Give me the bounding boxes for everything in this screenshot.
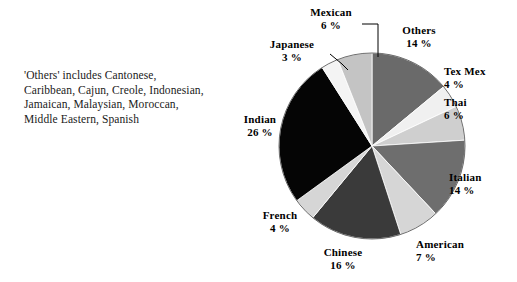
pie-label-thai-name: Thai (444, 96, 488, 109)
pie-label-texmex-name: Tex Mex (444, 65, 506, 78)
pie-label-american-name: American (416, 238, 484, 251)
pie-label-french-name: French (252, 209, 308, 222)
pie-label-indian-pct: 26 % (232, 126, 288, 139)
pie-label-thai-pct: 6 % (444, 109, 488, 122)
pie-label-american: American 7 % (416, 238, 484, 264)
pie-label-italian-name: Italian (449, 171, 509, 184)
pie-label-others-pct: 14 % (388, 37, 450, 50)
pie-chart-figure: 'Others' includes Cantonese, Caribbean, … (0, 0, 517, 282)
pie-label-others-name: Others (388, 24, 450, 37)
pie-label-italian-pct: 14 % (449, 184, 509, 197)
pie-label-others: Others 14 % (388, 24, 450, 50)
pie-label-french-pct: 4 % (252, 222, 308, 235)
pie-label-chinese-pct: 16 % (312, 259, 374, 272)
pie-label-thai: Thai 6 % (444, 96, 488, 122)
pie-label-italian: Italian 14 % (449, 171, 509, 197)
pie-label-indian: Indian 26 % (232, 113, 288, 139)
pie-label-french: French 4 % (252, 209, 308, 235)
pie-label-indian-name: Indian (232, 113, 288, 126)
pie-label-mexican-pct: 6 % (292, 19, 370, 32)
pie-label-chinese: Chinese 16 % (312, 246, 374, 272)
pie-label-chinese-name: Chinese (312, 246, 374, 259)
pie-label-texmex: Tex Mex 4 % (444, 65, 506, 91)
pie-label-texmex-pct: 4 % (444, 78, 506, 91)
pie-label-mexican: Mexican 6 % (292, 6, 370, 32)
pie-label-japanese-pct: 3 % (254, 51, 330, 64)
pie-label-american-pct: 7 % (416, 251, 484, 264)
pie-label-japanese-name: Japanese (254, 38, 330, 51)
pie-label-mexican-name: Mexican (292, 6, 370, 19)
pie-label-japanese: Japanese 3 % (254, 38, 330, 64)
